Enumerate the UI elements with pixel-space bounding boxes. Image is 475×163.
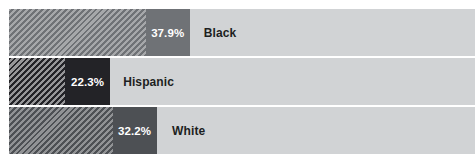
bar-label-black: Black [204,9,237,56]
bar-list: 37.9% Black 22.3% Hispanic 32.2% White [9,9,475,154]
bar-hatch-white [9,107,113,154]
clipped-title-text [9,0,309,3]
bar-label-white: White [172,107,205,154]
bar-value-black: 37.9% [151,9,184,56]
bar-row[interactable]: 37.9% Black [9,9,475,56]
bar-row[interactable]: 32.2% White [9,107,475,154]
bar-hatch-hispanic [9,58,65,105]
bar-row[interactable]: 22.3% Hispanic [9,58,475,105]
horizontal-bar-chart: 37.9% Black 22.3% Hispanic 32.2% White [0,0,475,163]
bar-value-hispanic: 22.3% [71,58,104,105]
bar-hatch-black [9,9,146,56]
bar-label-hispanic: Hispanic [123,58,174,105]
bar-value-white: 32.2% [118,107,151,154]
